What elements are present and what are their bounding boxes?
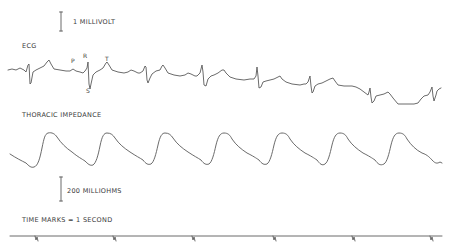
time-marks-trace [10, 236, 442, 241]
time-marks-label: TIME MARKS = 1 SECOND [22, 216, 112, 224]
s-wave-label: S [86, 87, 90, 94]
p-wave-label: P [71, 57, 75, 64]
ecg-trace [8, 60, 441, 104]
milliohm-scale-bar [60, 177, 63, 201]
r-wave-label: R [83, 52, 87, 59]
millivolt-scale-label: 1 MILLIVOLT [73, 18, 115, 26]
ecg-label: ECG [22, 42, 37, 50]
figure-canvas [0, 0, 450, 251]
milliohm-scale-label: 200 MILLIOHMS [67, 187, 122, 195]
millivolt-scale-bar [60, 12, 63, 31]
thoracic-impedance-trace [10, 133, 442, 168]
t-wave-label: T [105, 55, 109, 62]
thoracic-impedance-label: THORACIC IMPEDANCE [22, 111, 101, 119]
